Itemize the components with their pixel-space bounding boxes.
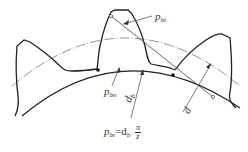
pbt-arrowhead (123, 20, 129, 25)
formula-eq-sub: b (127, 131, 131, 139)
db-arrowhead (140, 69, 144, 75)
pitch-circle (12, 38, 240, 86)
gear-tooth-left (15, 40, 97, 116)
d-arrowhead (206, 63, 211, 69)
pbt-sub: bt (161, 16, 166, 24)
tangent-line (111, 16, 213, 97)
pbn-arrowhead (117, 67, 121, 73)
gear-tooth-right (175, 34, 236, 108)
formula-fraction: π z (135, 124, 141, 141)
formula-eq: =d (115, 125, 127, 137)
pbn-sub: bn (110, 91, 117, 99)
base-point-right (171, 73, 175, 77)
formula-denominator: z (135, 133, 141, 141)
tangent-point-top (109, 14, 112, 17)
tangent-point-bottom (211, 95, 214, 98)
base-point-left (96, 68, 100, 72)
label-pbt-top: pbt (155, 11, 166, 24)
label-pbn: pbn (104, 86, 117, 99)
formula: pbt=db π z (104, 124, 141, 141)
d-line (183, 64, 211, 112)
